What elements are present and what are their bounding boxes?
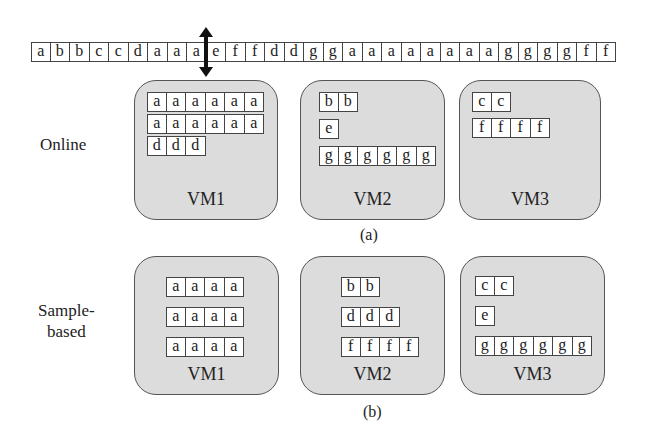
sequence-cell: g [499, 42, 519, 62]
vm-block-cell: c [495, 276, 515, 296]
sample-based-label-line2: based [38, 321, 95, 342]
vm-block-cell: f [511, 118, 531, 138]
online-label: Online [40, 134, 86, 155]
vm-block-cell: g [475, 336, 495, 356]
vm-block-cell: d [147, 136, 167, 156]
vm-label: VM1 [135, 189, 277, 210]
sequence-cell: b [51, 42, 71, 62]
vm-block-cell: f [492, 118, 512, 138]
vm-block-cell: a [225, 114, 245, 134]
sequence-cell: a [480, 42, 500, 62]
vm-block-cell: g [495, 336, 515, 356]
sequence-cell: a [148, 42, 168, 62]
vm-block-cell: d [186, 136, 206, 156]
vm-block-row: gggggg [319, 146, 436, 166]
vm-label: VM3 [461, 364, 604, 385]
caption-a: (a) [360, 226, 378, 244]
vm-block-cell: a [186, 114, 206, 134]
vm-block-row: aaaaaa [147, 114, 264, 134]
vm-block-cell: c [475, 276, 495, 296]
vm-label: VM2 [301, 189, 444, 210]
vm-block-cell: d [361, 307, 381, 327]
vm-block-cell: g [339, 146, 359, 166]
sample-based-label: Sample- based [38, 300, 95, 342]
vm-block-cell: a [166, 277, 186, 297]
vm-block-row: cc [475, 276, 514, 296]
sequence-cell: f [597, 42, 617, 62]
double-vertical-arrow-icon [198, 27, 214, 77]
sequence-cell: f [246, 42, 266, 62]
vm2-online: VM2 bbegggggg [300, 80, 445, 220]
vm-block-cell: f [472, 118, 492, 138]
sequence-cell: f [577, 42, 597, 62]
input-sequence: abbccdaaaeffddggaaaaaaaaggggff [31, 42, 616, 62]
vm-block-cell: b [341, 277, 361, 297]
vm-block-cell: a [186, 92, 206, 112]
vm-block-cell: a [167, 92, 187, 112]
vm-block-cell: g [397, 146, 417, 166]
sequence-cell: a [363, 42, 383, 62]
vm-block-cell: f [361, 337, 381, 357]
sequence-cell: g [324, 42, 344, 62]
sequence-cell: a [460, 42, 480, 62]
vm-block-row: bb [319, 92, 358, 112]
vm-block-cell: a [225, 337, 245, 357]
sequence-cell: g [538, 42, 558, 62]
vm-block-cell: a [206, 114, 226, 134]
vm1-sample-based: VM1 aaaaaaaaaaaa [134, 256, 279, 395]
vm2-sample-based: VM2 bbdddffff [300, 256, 445, 395]
vm-block-cell: b [361, 277, 381, 297]
vm-block-cell: a [225, 92, 245, 112]
sequence-cell: g [519, 42, 539, 62]
vm-block-cell: e [319, 119, 339, 139]
sequence-cell: a [343, 42, 363, 62]
vm-block-cell: d [380, 307, 400, 327]
vm-block-cell: a [166, 337, 186, 357]
vm-block-cell: a [245, 92, 265, 112]
vm-label: VM1 [135, 364, 278, 385]
vm-block-row: bb [341, 277, 380, 297]
vm-block-cell: a [245, 114, 265, 134]
vm-block-cell: c [472, 92, 492, 112]
sequence-cell: a [441, 42, 461, 62]
sequence-cell: a [421, 42, 441, 62]
vm-block-cell: b [319, 92, 339, 112]
vm-block-cell: f [400, 337, 420, 357]
vm-block-cell: a [225, 277, 245, 297]
vm1-online: VM1 aaaaaaaaaaaaddd [134, 80, 278, 220]
vm-block-cell: f [380, 337, 400, 357]
sequence-cell: g [558, 42, 578, 62]
vm-block-cell: d [167, 136, 187, 156]
vm-block-cell: g [417, 146, 437, 166]
vm-block-cell: g [358, 146, 378, 166]
vm-block-row: aaaaaa [147, 92, 264, 112]
vm-block-cell: e [475, 306, 495, 326]
vm-block-cell: a [205, 337, 225, 357]
sequence-cell: a [402, 42, 422, 62]
vm-block-cell: a [206, 92, 226, 112]
sequence-cell: a [382, 42, 402, 62]
vm-block-row: e [475, 306, 495, 326]
vm3-sample-based: VM3 ccegggggg [460, 256, 605, 395]
vm-label: VM3 [460, 189, 600, 210]
vm-block-row: cc [472, 92, 511, 112]
vm-block-row: gggggg [475, 336, 592, 356]
vm-block-cell: a [205, 277, 225, 297]
sequence-cell: d [129, 42, 149, 62]
sequence-cell: g [304, 42, 324, 62]
vm-block-cell: g [514, 336, 534, 356]
caption-b: (b) [363, 403, 382, 421]
vm-block-row: ffff [341, 337, 419, 357]
sequence-cell: d [285, 42, 305, 62]
vm-block-cell: a [186, 277, 206, 297]
vm-block-cell: c [492, 92, 512, 112]
vm-block-row: aaaa [166, 337, 244, 357]
vm-block-row: ffff [472, 118, 550, 138]
vm-label: VM2 [301, 364, 444, 385]
vm-block-row: e [319, 119, 339, 139]
vm-block-cell: g [553, 336, 573, 356]
sequence-cell: a [31, 42, 51, 62]
vm-block-row: aaaa [166, 307, 244, 327]
vm-block-cell: a [167, 114, 187, 134]
vm-block-cell: g [534, 336, 554, 356]
